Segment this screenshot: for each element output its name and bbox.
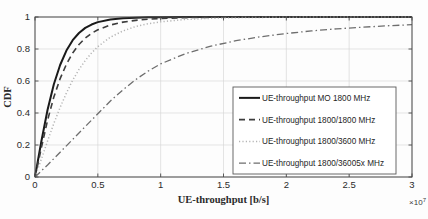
- cdf-chart-figure: 00.511.522.53 00.20.40.60.81 UE-throughp…: [0, 0, 428, 219]
- y-axis-tick-labels: 00.20.40.60.81: [17, 11, 30, 182]
- x-tick-label: 0: [32, 179, 37, 190]
- x-tick-label: 2: [284, 179, 289, 190]
- x-axis-tick-labels: 00.511.522.53: [32, 179, 414, 190]
- y-axis-title: CDF: [2, 86, 13, 108]
- legend-item-label: UE-throughput 1800/3600 MHz: [262, 137, 375, 146]
- legend-item-label: UE-throughput 1800/36005x MHz: [262, 159, 384, 168]
- y-tick-label: 0.4: [17, 107, 30, 118]
- x-tick-label: 3: [409, 179, 414, 190]
- x-axis-title: UE-throughput [b/s]: [178, 194, 270, 205]
- x-tick-label: 1.5: [217, 179, 230, 190]
- plot-canvas: 00.511.522.53 00.20.40.60.81 UE-throughp…: [0, 0, 428, 219]
- legend-item-label: UE-throughput 1800/1800 MHz: [262, 116, 375, 125]
- x-tick-label: 2.5: [343, 179, 356, 190]
- legend-item-label: UE-throughput MO 1800 MHz: [262, 94, 370, 103]
- y-tick-label: 0.6: [17, 75, 30, 86]
- y-tick-label: 0.2: [17, 139, 30, 150]
- y-tick-label: 1: [25, 11, 30, 22]
- legend: UE-throughput MO 1800 MHzUE-throughput 1…: [233, 87, 396, 174]
- x-axis-exponent: ×107: [409, 197, 427, 207]
- y-tick-label: 0: [25, 171, 30, 182]
- x-tick-label: 0.5: [91, 179, 104, 190]
- x-tick-label: 1: [158, 179, 163, 190]
- y-tick-label: 0.8: [17, 43, 30, 54]
